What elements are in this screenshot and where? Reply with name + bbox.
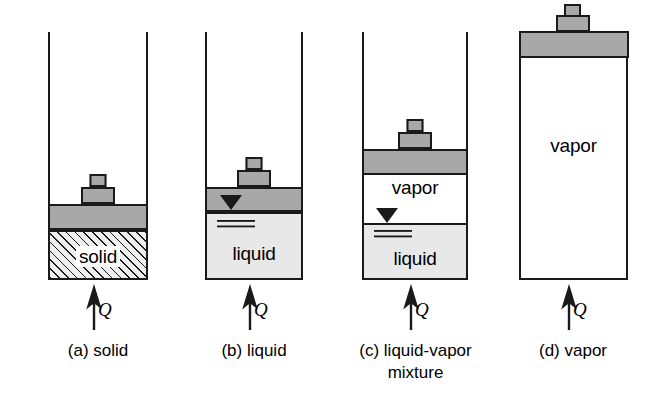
caption-a: (a) solid (23, 340, 173, 362)
phase-label-b: liquid (207, 244, 301, 263)
liquid-surface-marker-c (376, 208, 398, 223)
liquid-region-c: liquid (364, 223, 466, 278)
cylinder-d: vapor (519, 32, 628, 280)
liquid-region-b: liquid (207, 212, 301, 278)
cylinder-b: liquid (205, 32, 303, 280)
piston-d (519, 31, 629, 58)
heat-label-c: Q (415, 300, 429, 319)
cylinder-a: solid (48, 32, 148, 280)
weight-base-b (237, 170, 271, 187)
heat-arrow-b: Q (224, 284, 284, 330)
weight-top-d (564, 4, 581, 17)
weight-base-d (556, 15, 590, 32)
phase-label-d: vapor (521, 136, 626, 155)
caption-c: (c) liquid-vapor mixture (333, 340, 498, 383)
phase-label-c-vapor: vapor (364, 178, 466, 197)
phase-change-figure: solid Q (a) solid liquid (0, 0, 652, 405)
heat-arrow-d: Q (543, 284, 603, 330)
liquid-level-lines-c (374, 230, 412, 241)
heat-arrow-a: Q (68, 284, 128, 330)
piston-a (50, 204, 146, 230)
phase-label-c-liquid: liquid (364, 249, 466, 268)
weight-base-c (398, 132, 432, 149)
phase-label-a: solid (50, 247, 146, 266)
cylinder-c: liquid vapor (362, 32, 468, 280)
caption-b: (b) liquid (179, 340, 329, 362)
heat-label-b: Q (254, 300, 268, 319)
heat-label-d: Q (573, 300, 587, 319)
weight-base-a (81, 187, 115, 204)
piston-c (364, 149, 466, 175)
weight-top-a (90, 174, 107, 187)
caption-d: (d) vapor (498, 340, 648, 362)
vapor-region-d: vapor (521, 32, 626, 278)
liquid-level-lines-b (217, 220, 255, 231)
weight-top-b (246, 157, 263, 170)
liquid-surface-marker-b (220, 195, 242, 210)
solid-region-a: solid (50, 230, 146, 278)
weight-top-c (407, 119, 424, 132)
heat-label-a: Q (98, 300, 112, 319)
heat-arrow-c: Q (385, 284, 445, 330)
